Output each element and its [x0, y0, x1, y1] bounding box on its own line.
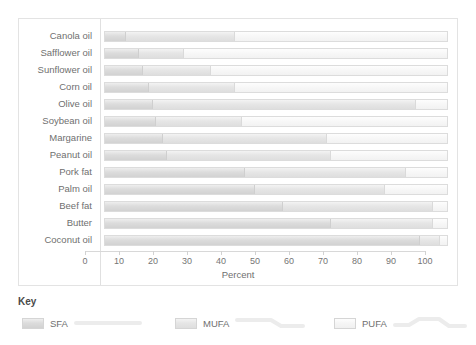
bar-segment-pufa: [440, 236, 447, 245]
category-label-row: Sunflower oil: [19, 63, 100, 80]
category-label-row: Safflower oil: [19, 46, 100, 63]
bar-segment-sfa: [105, 185, 255, 194]
x-axis-tick-label: 80: [352, 256, 362, 266]
plot-area: [101, 19, 457, 285]
x-axis-tick: [425, 251, 426, 255]
x-axis-tick-label: 50: [250, 256, 260, 266]
bar-segment-mufa: [283, 202, 433, 211]
category-label-row: Soybean oil: [19, 114, 100, 131]
legend-label-sfa: SFA: [50, 318, 68, 329]
category-label-safflower-oil: Safflower oil: [40, 46, 92, 60]
bar-segment-pufa: [331, 151, 447, 160]
category-label-olive-oil: Olive oil: [58, 97, 92, 111]
chart-card: Canola oilSafflower oilSunflower oilCorn…: [18, 18, 458, 286]
x-axis-tick: [153, 251, 154, 255]
bar-segment-mufa: [331, 219, 434, 228]
x-axis-tick: [119, 251, 120, 255]
bar-row: [101, 29, 457, 46]
bar-row: [101, 46, 457, 63]
legend-connector-sfa-icon: [74, 318, 142, 328]
stacked-bar-coconut-oil[interactable]: [104, 235, 448, 246]
bar-segment-pufa: [184, 49, 447, 58]
bar-segment-mufa: [420, 236, 441, 245]
legend-swatch-sfa: [22, 318, 44, 329]
stacked-bar-sunflower-oil[interactable]: [104, 65, 448, 76]
stacked-bar-safflower-oil[interactable]: [104, 48, 448, 59]
bar-segment-pufa: [406, 168, 447, 177]
bar-segment-mufa: [126, 32, 235, 41]
bar-segment-pufa: [235, 32, 447, 41]
bar-row: [101, 199, 457, 216]
bar-segment-pufa: [327, 134, 447, 143]
stacked-bar-butter[interactable]: [104, 218, 448, 229]
stacked-bar-palm-oil[interactable]: [104, 184, 448, 195]
bar-segment-sfa: [105, 32, 126, 41]
bar-segment-mufa: [153, 100, 416, 109]
bar-segment-sfa: [105, 219, 331, 228]
x-axis-tick-label: 60: [284, 256, 294, 266]
category-label-column: Canola oilSafflower oilSunflower oilCorn…: [19, 19, 101, 285]
x-axis-tick: [187, 251, 188, 255]
category-label-row: Beef fat: [19, 199, 100, 216]
stacked-bar-corn-oil[interactable]: [104, 82, 448, 93]
x-axis-tick-label: 10: [114, 256, 124, 266]
legend-label-mufa: MUFA: [203, 318, 229, 329]
x-axis-tick: [85, 251, 86, 255]
bar-segment-sfa: [105, 83, 149, 92]
category-label-margarine: Margarine: [49, 131, 92, 145]
bar-row: [101, 148, 457, 165]
stacked-bar-olive-oil[interactable]: [104, 99, 448, 110]
category-label-row: Canola oil: [19, 29, 100, 46]
bar-segment-pufa: [242, 117, 447, 126]
x-axis-tick: [255, 251, 256, 255]
stacked-bar-canola-oil[interactable]: [104, 31, 448, 42]
x-axis-tick: [357, 251, 358, 255]
stacked-bar-beef-fat[interactable]: [104, 201, 448, 212]
category-label-row: Butter: [19, 216, 100, 233]
stacked-bar-peanut-oil[interactable]: [104, 150, 448, 161]
category-label-row: Olive oil: [19, 97, 100, 114]
category-label-canola-oil: Canola oil: [50, 29, 92, 43]
category-label-row: Corn oil: [19, 80, 100, 97]
bar-segment-pufa: [416, 100, 447, 109]
bar-segment-sfa: [105, 202, 283, 211]
bar-row: [101, 80, 457, 97]
bar-row: [101, 131, 457, 148]
bar-segment-sfa: [105, 168, 245, 177]
bar-segment-pufa: [385, 185, 447, 194]
category-label-sunflower-oil: Sunflower oil: [38, 63, 92, 77]
category-label-row: Pork fat: [19, 165, 100, 182]
bar-row: [101, 63, 457, 80]
bar-segment-pufa: [433, 219, 447, 228]
x-axis-tick-label: 90: [386, 256, 396, 266]
legend-item-mufa[interactable]: MUFA: [175, 315, 305, 331]
x-axis-tick: [323, 251, 324, 255]
bar-segment-pufa: [235, 83, 447, 92]
bar-segment-mufa: [156, 117, 242, 126]
bar-segment-pufa: [433, 202, 447, 211]
bar-row: [101, 165, 457, 182]
x-axis-tick: [289, 251, 290, 255]
bar-segment-sfa: [105, 100, 153, 109]
x-axis-title: Percent: [0, 269, 476, 280]
bar-segment-sfa: [105, 151, 167, 160]
x-axis-tick-label: 100: [417, 256, 432, 266]
category-label-soybean-oil: Soybean oil: [42, 114, 92, 128]
bar-row: [101, 97, 457, 114]
stacked-bar-margarine[interactable]: [104, 133, 448, 144]
bar-segment-mufa: [143, 66, 211, 75]
bar-segment-sfa: [105, 236, 420, 245]
category-label-row: Margarine: [19, 131, 100, 148]
bar-row: [101, 216, 457, 233]
stacked-bar-soybean-oil[interactable]: [104, 116, 448, 127]
category-label-row: Coconut oil: [19, 233, 100, 250]
bar-segment-sfa: [105, 134, 163, 143]
bar-segment-mufa: [163, 134, 327, 143]
legend-swatch-mufa: [175, 318, 197, 329]
legend-item-pufa[interactable]: PUFA: [334, 315, 467, 331]
stacked-bar-pork-fat[interactable]: [104, 167, 448, 178]
legend-item-sfa[interactable]: SFA: [22, 315, 142, 331]
bar-segment-mufa: [149, 83, 235, 92]
bar-segment-mufa: [255, 185, 385, 194]
bar-row: [101, 233, 457, 250]
